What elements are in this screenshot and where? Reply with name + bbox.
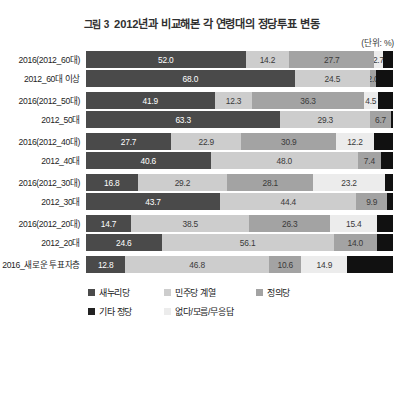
bar-segment: 30.9 [241,133,336,150]
bar-segment: 14.9 [301,256,347,273]
bar-segment: 43.7 [86,193,220,210]
bar-segment [383,51,393,68]
bar-segment: 24.6 [86,234,162,251]
chart-row: 2016(2012_20대)14.738.526.315.4 [0,215,403,232]
legend-label: 기타 정당 [99,305,132,318]
figure-number: 그림 3 [84,19,110,30]
row-category-label: 2016_새로운 투표자층 [0,261,86,270]
bar-segment: 12.2 [336,133,373,150]
chart-row: 2012_50대63.329.36.7 [0,111,403,128]
legend-label: 새누리당 [99,286,130,299]
legend-item: 정의당 [256,286,290,299]
stacked-bar: 63.329.36.7 [86,111,393,128]
bar-group: 2016_새로운 투표자층12.846.810.614.9 [0,256,403,273]
row-category-label: 2016(2012_60대) [0,56,86,65]
bar-segment: 14.0 [334,234,377,251]
chart-row: 2012_20대24.656.114.0 [0,234,403,251]
bar-segment: 12.8 [86,256,125,273]
chart-row: 2016(2012_40대)27.722.930.912.2 [0,133,403,150]
bar-segment: 63.3 [86,111,280,128]
legend-swatch-icon [164,308,171,315]
bar-segment: 27.7 [289,51,374,68]
stacked-bar: 41.912.336.34.5 [86,92,393,109]
row-category-label: 2016(2012_50대) [0,97,86,106]
bar-segment: 26.3 [249,215,330,232]
stacked-bar: 40.648.07.4 [86,152,393,169]
stacked-bar: 12.846.810.614.9 [86,256,393,273]
bar-segment [385,174,393,191]
legend-swatch-icon [88,308,95,315]
legend-swatch-icon [88,289,95,296]
chart-legend: 새누리당민주당 계열정의당기타 정당없다/모름/무응답 [0,286,403,318]
bar-group: 2016(2012_50대)41.912.336.34.52012_50대63.… [0,92,403,128]
chart-row: 2016_새로운 투표자층12.846.810.614.9 [0,256,403,273]
stacked-bar: 16.829.228.123.2 [86,174,393,191]
bar-segment: 14.2 [246,51,290,68]
bar-segment: 36.3 [252,92,363,109]
row-category-label: 2012_20대 [0,239,86,248]
bar-segment [376,70,393,87]
row-category-label: 2012_60대 이상 [0,75,86,84]
unit-note: (단위: %) [0,36,403,48]
legend-swatch-icon [256,289,263,296]
bar-segment: 7.4 [358,152,381,169]
row-category-label: 2012_40대 [0,157,86,166]
bar-segment [378,92,393,109]
bar-segment: 41.9 [86,92,215,109]
legend-row: 기타 정당없다/모름/무응답 [88,305,403,318]
bar-group: 2016(2012_40대)27.722.930.912.22012_40대40… [0,133,403,169]
bar-segment: 28.1 [227,174,313,191]
row-category-label: 2016(2012_40대) [0,138,86,147]
bar-group: 2016(2012_20대)14.738.526.315.42012_20대24… [0,215,403,251]
chart-row: 2016(2012_50대)41.912.336.34.5 [0,92,403,109]
legend-label: 없다/모름/무응답 [175,305,233,318]
legend-label: 정의당 [267,286,290,299]
bar-group: 2016(2012_60대)52.014.227.72.72012_60대 이상… [0,51,403,87]
figure-title-text: 2012년과 비교해본 각 연령대의 정당투표 변동 [114,18,319,30]
bar-segment [374,133,393,150]
row-category-label: 2016(2012_30대) [0,179,86,188]
bar-segment: 38.5 [131,215,249,232]
bar-segment [391,111,393,128]
bar-segment [387,193,393,210]
bar-segment: 52.0 [86,51,246,68]
bar-segment: 27.7 [86,133,171,150]
stacked-bar: 27.722.930.912.2 [86,133,393,150]
legend-swatch-icon [164,289,171,296]
bar-segment: 23.2 [313,174,384,191]
bar-segment [381,152,393,169]
bar-segment: 68.0 [86,70,295,87]
chart-row: 2012_60대 이상68.024.52.0 [0,70,403,87]
chart-row: 2016(2012_30대)16.829.228.123.2 [0,174,403,191]
row-category-label: 2012_30대 [0,198,86,207]
chart-row: 2012_30대43.744.49.9 [0,193,403,210]
legend-item: 새누리당 [88,286,164,299]
bar-segment: 24.5 [295,70,370,87]
stacked-bar: 52.014.227.72.7 [86,51,393,68]
bar-segment: 16.8 [86,174,138,191]
legend-label: 민주당 계열 [175,286,216,299]
bar-segment: 2.7 [374,51,382,68]
bar-segment: 40.6 [86,152,211,169]
stacked-bar: 68.024.52.0 [86,70,393,87]
legend-row: 새누리당민주당 계열정의당 [88,286,403,299]
bar-segment: 46.8 [125,256,269,273]
bar-segment: 22.9 [171,133,241,150]
bar-segment: 14.7 [86,215,131,232]
bar-segment: 44.4 [220,193,356,210]
bar-segment [347,256,393,273]
bar-segment: 4.5 [364,92,378,109]
bar-group: 2016(2012_30대)16.829.228.123.22012_30대43… [0,174,403,210]
bar-segment: 9.9 [356,193,386,210]
legend-item: 없다/모름/무응답 [164,305,256,318]
bar-segment: 12.3 [215,92,253,109]
page-title: 그림 3 2012년과 비교해본 각 연령대의 정당투표 변동 [0,0,403,31]
stacked-bar: 24.656.114.0 [86,234,393,251]
stacked-bar: 14.738.526.315.4 [86,215,393,232]
row-category-label: 2016(2012_20대) [0,220,86,229]
bar-segment: 48.0 [211,152,358,169]
row-category-label: 2012_50대 [0,116,86,125]
bar-segment: 29.3 [280,111,370,128]
chart-row: 2016(2012_60대)52.014.227.72.7 [0,51,403,68]
stacked-bar: 43.744.49.9 [86,193,393,210]
